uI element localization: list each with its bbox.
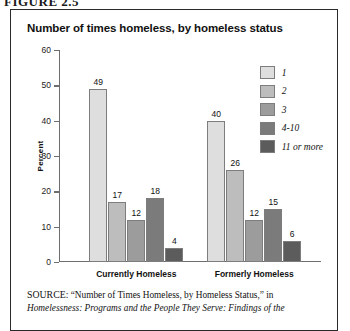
bar-value-label: 15 (268, 197, 277, 207)
bar-value-label: 18 (151, 186, 160, 196)
source-prefix: SOURCE: (27, 289, 68, 300)
x-axis-category-label: Formerly Homeless (202, 269, 306, 279)
bar-group: 491712184Currently Homeless (84, 50, 188, 262)
bar-value-label: 12 (249, 208, 258, 218)
y-tick-label: 40 (42, 116, 51, 126)
legend-label: 2 (282, 86, 287, 96)
bar[interactable] (264, 209, 282, 262)
y-axis-line (59, 50, 60, 262)
bar-item[interactable]: 18 (146, 50, 164, 262)
x-axis-category-label: Currently Homeless (84, 269, 188, 279)
legend-item[interactable]: 3 (260, 103, 323, 116)
bar-value-label: 6 (290, 229, 295, 239)
chart-legend: 1234-1011 or more (260, 66, 323, 153)
legend-item[interactable]: 11 or more (260, 140, 323, 153)
bar-item[interactable]: 40 (207, 50, 225, 262)
legend-item[interactable]: 1 (260, 66, 323, 79)
bar-value-label: 4 (172, 236, 177, 246)
y-tick (54, 262, 59, 263)
legend-item[interactable]: 4-10 (260, 122, 323, 135)
bar[interactable] (283, 241, 301, 262)
legend-label: 4-10 (282, 123, 299, 133)
chart-title: Number of times homeless, by homeless st… (27, 22, 283, 34)
bar-value-label: 26 (230, 158, 239, 168)
y-tick-label: 30 (42, 151, 51, 161)
legend-swatch (260, 140, 275, 153)
y-tick (54, 227, 59, 228)
bar[interactable] (108, 202, 126, 262)
legend-swatch (260, 122, 275, 135)
y-tick-label: 0 (46, 257, 51, 267)
legend-label: 11 or more (282, 142, 323, 152)
bar[interactable] (127, 220, 145, 262)
y-tick (54, 156, 59, 157)
bar-item[interactable]: 49 (89, 50, 107, 262)
y-tick (54, 85, 59, 86)
y-tick-label: 20 (42, 186, 51, 196)
bar-group-bars: 491712184 (84, 50, 188, 262)
y-tick-label: 10 (42, 222, 51, 232)
bar[interactable] (207, 121, 225, 262)
bar-value-label: 17 (113, 190, 122, 200)
legend-label: 1 (282, 68, 287, 78)
y-tick-label: 50 (42, 80, 51, 90)
bar[interactable] (165, 248, 183, 262)
legend-label: 3 (282, 105, 287, 115)
bar[interactable] (226, 170, 244, 262)
bar-item[interactable]: 17 (108, 50, 126, 262)
bar[interactable] (146, 198, 164, 262)
legend-swatch (260, 85, 275, 98)
source-italic: Homelessness: Programs and the People Th… (27, 303, 285, 313)
source-note: SOURCE: “Number of Times Homeless, by Ho… (27, 288, 327, 315)
bar-value-label: 49 (94, 77, 103, 87)
y-tick (54, 121, 59, 122)
bar-value-label: 12 (132, 208, 141, 218)
figure-box: Number of times homeless, by homeless st… (10, 9, 338, 331)
legend-item[interactable]: 2 (260, 85, 323, 98)
bar-value-label: 40 (211, 109, 220, 119)
bar-item[interactable]: 4 (165, 50, 183, 262)
bar[interactable] (89, 89, 107, 262)
source-quoted: “Number of Times Homeless, by Homeless S… (71, 290, 274, 300)
bar[interactable] (245, 220, 263, 262)
bar-item[interactable]: 12 (127, 50, 145, 262)
y-tick-label: 60 (42, 45, 51, 55)
legend-swatch (260, 66, 275, 79)
bar-item[interactable]: 26 (226, 50, 244, 262)
y-tick (54, 50, 59, 51)
y-tick (54, 191, 59, 192)
legend-swatch (260, 103, 275, 116)
